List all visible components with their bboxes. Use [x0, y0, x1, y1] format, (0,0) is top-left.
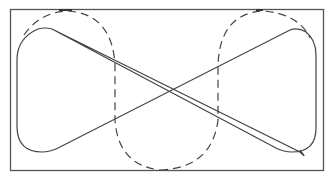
left-dashed-oval: [24, 11, 160, 170]
figure-eight-diagram: [0, 0, 330, 180]
figure-eight-loop: [17, 28, 316, 156]
